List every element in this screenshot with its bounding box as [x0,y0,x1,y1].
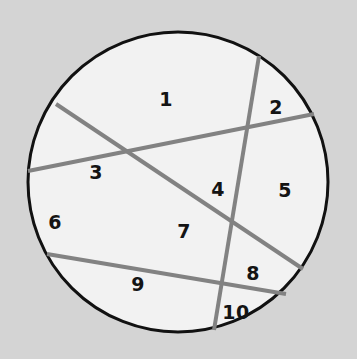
region-label-9: 9 [131,273,145,295]
region-label-8: 8 [246,262,260,284]
region-label-6: 6 [48,211,62,233]
region-label-3: 3 [89,161,103,183]
region-label-1: 1 [159,88,173,110]
region-label-10: 10 [222,301,249,323]
figure-canvas: 12345678910 [0,0,357,359]
region-label-2: 2 [269,96,283,118]
circle-regions-diagram: 12345678910 [0,0,357,359]
region-label-4: 4 [211,178,225,200]
region-label-7: 7 [177,220,191,242]
region-label-5: 5 [278,179,292,201]
